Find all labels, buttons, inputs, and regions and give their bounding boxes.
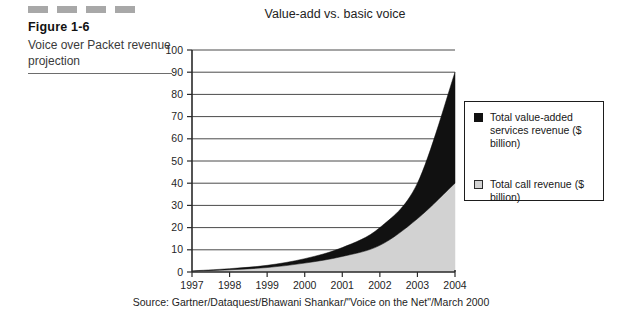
y-axis-labels: 0102030405060708090100 [165,44,183,278]
x-tick-label: 2003 [406,279,430,291]
y-tick-label: 70 [171,110,183,122]
y-tick-label: 50 [171,155,183,167]
legend-swatch-dark-icon [474,113,483,122]
y-tick-label: 90 [171,66,183,78]
y-tick-label: 40 [171,177,183,189]
legend-label: Total call revenue ($ billion) [490,178,595,204]
x-tick-label: 2004 [443,279,467,291]
legend-item-value-added: Total value-added services revenue ($ bi… [474,111,595,150]
x-axis-labels: 19971998199920002001200220032004 [180,279,467,291]
y-tick-label: 0 [177,266,183,278]
y-tick-label: 10 [171,243,183,255]
y-tick-label: 20 [171,221,183,233]
series-areas [192,72,455,272]
x-tick-label: 2000 [293,279,317,291]
y-tick-label: 30 [171,199,183,211]
legend-item-call-revenue: Total call revenue ($ billion) [474,178,595,204]
x-tick-label: 1997 [180,279,204,291]
y-tick-label: 60 [171,132,183,144]
x-tick-label: 1999 [255,279,279,291]
legend-swatch-light-icon [474,180,483,189]
chart-legend: Total value-added services revenue ($ bi… [464,101,604,201]
figure-container: Figure 1-6 Voice over Packet revenue pro… [0,0,622,317]
y-tick-label: 100 [165,44,183,56]
chart-source-note: Source: Gartner/Dataquest/Bhawani Shanka… [0,296,622,308]
y-tick-label: 80 [171,88,183,100]
x-tick-label: 2002 [368,279,392,291]
x-tick-label: 1998 [218,279,242,291]
x-tick-label: 2001 [331,279,355,291]
legend-label: Total value-added services revenue ($ bi… [490,111,595,150]
